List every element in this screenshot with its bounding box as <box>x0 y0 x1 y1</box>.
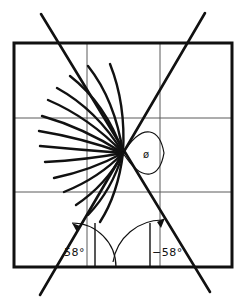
label-angle-right: −58° <box>152 246 183 259</box>
figure-root: ø 58° −58° <box>0 0 248 308</box>
label-angle-left: 58° <box>64 246 85 259</box>
label-phi: ø <box>143 149 149 160</box>
angle-fan-diagram: ø 58° −58° <box>0 0 248 308</box>
